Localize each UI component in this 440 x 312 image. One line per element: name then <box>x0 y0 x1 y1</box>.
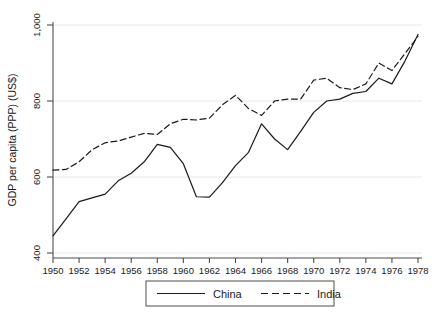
x-tick-label: 1958 <box>147 265 168 276</box>
x-tick-label: 1954 <box>95 265 116 276</box>
x-tick-label: 1968 <box>277 265 298 276</box>
legend-label-china: China <box>213 288 243 300</box>
x-tick-label: 1970 <box>303 265 324 276</box>
x-tick-label: 1972 <box>329 265 350 276</box>
y-tick-label: 600 <box>31 169 42 185</box>
legend: China India <box>146 281 342 306</box>
x-tick-label: 1962 <box>199 265 220 276</box>
series-line-india <box>53 36 418 170</box>
legend-label-india: India <box>317 288 342 300</box>
y-axis-tick-labels: 4006008001,000 <box>31 13 42 261</box>
x-tick-label: 1956 <box>121 265 142 276</box>
y-tick-label: 1,000 <box>31 13 42 37</box>
x-tick-label: 1978 <box>407 265 428 276</box>
x-axis-tick-labels: 1950195219541956195819601962196419661968… <box>42 265 428 276</box>
y-tick-label: 800 <box>31 93 42 109</box>
x-tick-label: 1976 <box>381 265 402 276</box>
y-axis-ticks <box>47 25 53 253</box>
series-lines <box>53 35 418 236</box>
gdp-line-chart: 4006008001,000 1950195219541956195819601… <box>0 0 440 312</box>
x-tick-label: 1960 <box>173 265 194 276</box>
x-tick-label: 1964 <box>225 265 246 276</box>
y-tick-label: 400 <box>31 245 42 261</box>
x-tick-label: 1966 <box>251 265 272 276</box>
y-axis-title: GDP per capita (PPP) (US$) <box>6 74 18 207</box>
x-tick-label: 1974 <box>355 265 376 276</box>
chart-container: 4006008001,000 1950195219541956195819601… <box>0 0 440 312</box>
y-axis-gridlines <box>53 25 422 253</box>
x-tick-label: 1952 <box>69 265 90 276</box>
x-axis-ticks <box>53 258 418 263</box>
series-line-china <box>53 35 418 236</box>
x-tick-label: 1950 <box>42 265 63 276</box>
